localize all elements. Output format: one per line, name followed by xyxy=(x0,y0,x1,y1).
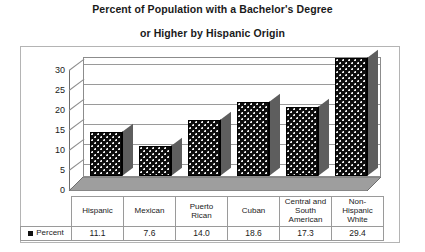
y-axis-tick-label: 20 xyxy=(41,105,65,115)
bar xyxy=(335,58,367,176)
table-row-categories: HispanicMexicanPuertoRicanCubanCentral a… xyxy=(21,197,384,227)
bar-front-face xyxy=(139,146,171,176)
table-category-cell: Central andSouthAmerican xyxy=(280,197,332,227)
chart-floor xyxy=(69,177,381,191)
floor-polygon xyxy=(69,177,381,191)
y-axis-tick-label: 30 xyxy=(41,65,65,75)
table-category-line: Mexican xyxy=(125,207,174,216)
bar-side-face xyxy=(269,93,280,176)
bar-front-face xyxy=(335,58,367,176)
legend-swatch-icon xyxy=(28,231,33,236)
chart-title-line-2: or Higher by Hispanic Origin xyxy=(0,27,425,39)
table-category-line: Cuban xyxy=(229,207,278,216)
data-table: HispanicMexicanPuertoRicanCubanCentral a… xyxy=(20,196,384,241)
bar-front-face xyxy=(188,120,220,176)
legend-label: Percent xyxy=(36,228,64,237)
bar xyxy=(90,132,122,176)
table-category-line: Hispanic xyxy=(73,207,122,216)
bar xyxy=(237,102,269,176)
table-row-values: Percent 11.17.614.018.617.329.4 xyxy=(21,227,384,241)
plot-area xyxy=(69,57,381,190)
table-category-line: American xyxy=(281,216,330,225)
table-value-cell: 7.6 xyxy=(124,227,176,241)
table-value-cell: 18.6 xyxy=(228,227,280,241)
table-value-cell: 14.0 xyxy=(176,227,228,241)
chart-title-line-1: Percent of Population with a Bachelor's … xyxy=(0,3,425,15)
bar-front-face xyxy=(237,102,269,176)
legend-percent: Percent xyxy=(21,227,72,241)
table-value-cell: 17.3 xyxy=(280,227,332,241)
table-category-cell: Hispanic xyxy=(72,197,124,227)
bar-side-face xyxy=(367,50,378,176)
y-axis-tick-label: 5 xyxy=(41,165,65,175)
bar xyxy=(188,120,220,176)
bar-front-face xyxy=(286,107,318,176)
table-category-line: Rican xyxy=(177,212,226,221)
y-axis-tick-label: 15 xyxy=(41,125,65,135)
table-category-cell: Cuban xyxy=(228,197,280,227)
bar xyxy=(286,107,318,176)
y-axis-tick-label: 10 xyxy=(41,145,65,155)
bar-side-face xyxy=(220,112,231,176)
bar xyxy=(139,146,171,176)
bar-side-face xyxy=(122,123,133,176)
table-value-cell: 11.1 xyxy=(72,227,124,241)
bar-side-face xyxy=(318,99,329,176)
table-value-cell: 29.4 xyxy=(332,227,384,241)
y-axis-tick-label: 0 xyxy=(41,185,65,195)
chart-figure: Percent of Population with a Bachelor's … xyxy=(0,0,425,252)
table-corner-cell xyxy=(21,197,72,227)
table-category-line: White xyxy=(333,216,382,225)
y-axis-tick-label: 25 xyxy=(41,85,65,95)
table-category-cell: PuertoRican xyxy=(176,197,228,227)
table-category-cell: Non-HispanicWhite xyxy=(332,197,384,227)
bar-front-face xyxy=(90,132,122,176)
table-category-cell: Mexican xyxy=(124,197,176,227)
